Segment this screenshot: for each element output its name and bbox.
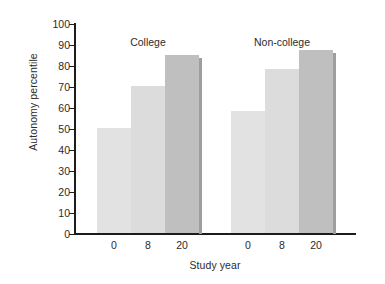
y-tick-label: 40 (58, 144, 70, 156)
bar (97, 128, 131, 233)
bar-body (131, 86, 165, 233)
y-axis-title: Autonomy percentile (27, 17, 39, 187)
bar-shadow-notch (199, 55, 202, 58)
bar-body (299, 50, 333, 233)
bar (165, 55, 199, 234)
y-tick-label: 70 (58, 81, 70, 93)
y-tick-label: 80 (58, 60, 70, 72)
y-tick-label: 60 (58, 102, 70, 114)
x-tick-label: 0 (111, 239, 117, 251)
y-tick-label: 20 (58, 186, 70, 198)
group-title: Non-college (254, 36, 310, 48)
y-axis-line (74, 23, 76, 234)
bar-body (231, 111, 265, 233)
bar (299, 50, 333, 233)
y-tick-label: 90 (58, 39, 70, 51)
bar-shadow-notch (333, 50, 336, 53)
y-tick-label: 10 (58, 207, 70, 219)
bar-shadow (199, 58, 202, 235)
y-tick-label: 30 (58, 165, 70, 177)
bar-chart-figure: Autonomy percentile Study year 100908070… (0, 0, 385, 284)
plot-area: 1009080706050403020100 08200820 CollegeN… (74, 23, 356, 234)
y-tick-label: 100 (52, 18, 70, 30)
bar-body (165, 55, 199, 234)
x-tick-label: 8 (145, 239, 151, 251)
x-tick-label: 8 (279, 239, 285, 251)
x-tick-label: 0 (245, 239, 251, 251)
bar (265, 69, 299, 233)
y-tick-label: 50 (58, 123, 70, 135)
x-axis-line (74, 233, 356, 235)
x-tick-label: 20 (310, 239, 322, 251)
bar (231, 111, 265, 233)
bar-body (265, 69, 299, 233)
x-axis-title: Study year (74, 259, 356, 271)
x-tick-label: 20 (176, 239, 188, 251)
y-tick-label: 0 (64, 228, 70, 240)
bar (131, 86, 165, 233)
bar-body (97, 128, 131, 233)
bar-shadow (333, 53, 336, 234)
group-title: College (130, 36, 166, 48)
